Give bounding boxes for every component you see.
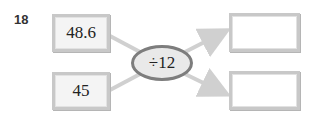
line-input2-to-op bbox=[110, 73, 142, 90]
output-box-1[interactable] bbox=[229, 13, 300, 52]
operation-ellipse: ÷12 bbox=[131, 45, 193, 81]
input-value-2: 45 bbox=[73, 81, 90, 101]
operation-label: ÷12 bbox=[149, 53, 175, 73]
line-input1-to-op bbox=[110, 36, 142, 53]
arrow-op-to-output1 bbox=[185, 32, 224, 52]
input-box-1: 48.6 bbox=[52, 14, 110, 52]
input-box-2: 45 bbox=[52, 72, 110, 110]
input-value-1: 48.6 bbox=[66, 23, 96, 43]
output-box-2[interactable] bbox=[229, 71, 300, 110]
arrow-op-to-output2 bbox=[185, 74, 224, 93]
